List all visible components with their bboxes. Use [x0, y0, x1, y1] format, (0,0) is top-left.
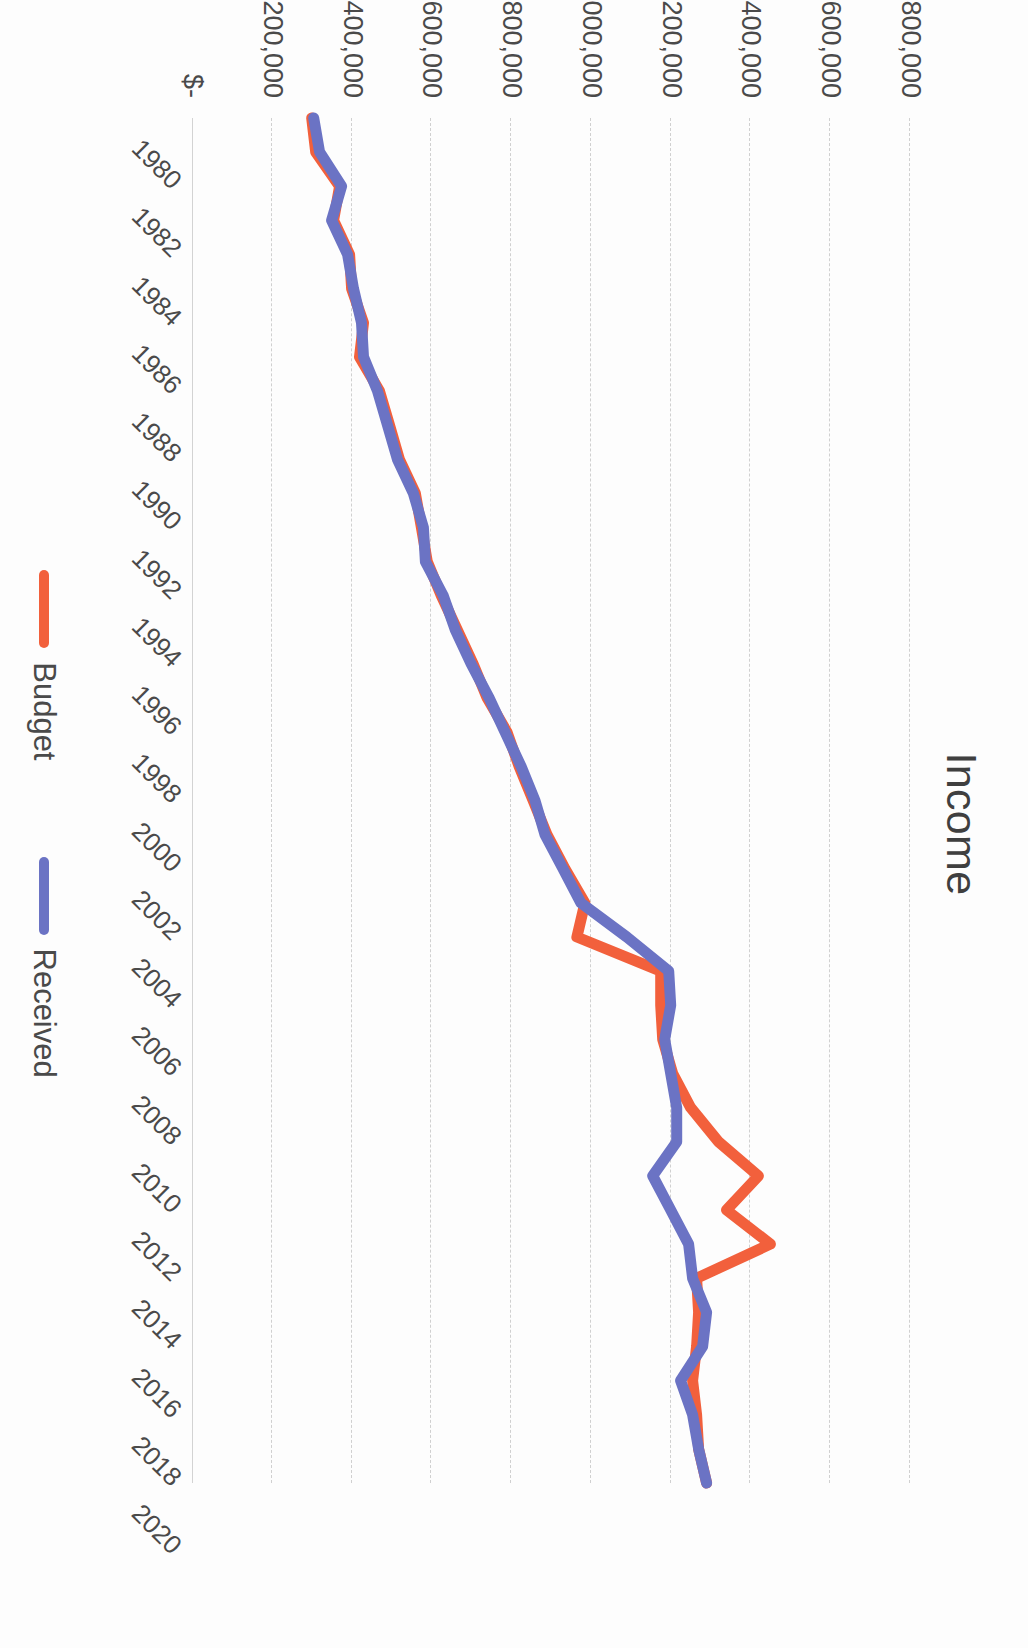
y-axis-tick-label: $200,000 — [256, 0, 287, 98]
line-swatch-icon — [39, 857, 49, 935]
y-axis-tick-label: $1,600,000 — [815, 0, 846, 98]
y-axis-tick-label: $800,000 — [496, 0, 527, 98]
x-axis-tick-label: 2002 — [125, 884, 188, 947]
rotated-page-canvas: Income $1,800,000$1,600,000$1,400,000$1,… — [0, 0, 1028, 1648]
x-axis-tick-label: 1988 — [125, 406, 188, 469]
line-swatch-icon — [39, 570, 49, 648]
y-axis-tick-label: $600,000 — [416, 0, 447, 98]
y-axis-tick-label: $1,000,000 — [575, 0, 606, 98]
series-lines — [192, 118, 910, 1483]
y-axis-labels: $1,800,000$1,600,000$1,400,000$1,200,000… — [192, 0, 910, 112]
x-axis-tick-label: 2006 — [125, 1020, 188, 1083]
x-axis-tick-label: 2014 — [125, 1293, 188, 1356]
series-line-received — [314, 118, 707, 1483]
y-axis-tick-label: $1,800,000 — [895, 0, 926, 98]
y-axis-tick-label: $- — [177, 74, 208, 98]
series-line-budget — [312, 118, 771, 1483]
chart-legend: BudgetReceived — [26, 0, 62, 1648]
legend-label: Received — [26, 949, 62, 1078]
x-axis-tick-label: 2018 — [125, 1430, 188, 1493]
x-axis-tick-label: 2004 — [125, 952, 188, 1015]
x-axis-tick-label: 1982 — [125, 201, 188, 264]
x-axis-tick-label: 1996 — [125, 679, 188, 742]
x-axis-tick-label: 1992 — [125, 542, 188, 605]
x-axis-tick-label: 1998 — [125, 747, 188, 810]
x-axis-tick-label: 2012 — [125, 1225, 188, 1288]
chart-title: Income — [937, 0, 986, 1648]
x-axis-labels: 1980198219841986198819901992199419961998… — [68, 118, 188, 1483]
y-axis-tick-label: $1,400,000 — [735, 0, 766, 98]
x-axis-tick-label: 1990 — [125, 474, 188, 537]
y-axis-tick-label: $400,000 — [336, 0, 367, 98]
x-axis-tick-label: 1994 — [125, 611, 188, 674]
y-axis-tick-label: $1,200,000 — [655, 0, 686, 98]
legend-label: Budget — [26, 662, 62, 760]
plot-area — [192, 118, 910, 1483]
income-line-chart: Income $1,800,000$1,600,000$1,400,000$1,… — [0, 0, 1028, 1648]
legend-item-received[interactable]: Received — [26, 857, 62, 1078]
x-axis-tick-label: 2008 — [125, 1088, 188, 1151]
x-axis-tick-label: 2020 — [125, 1498, 188, 1561]
x-axis-tick-label: 2000 — [125, 815, 188, 878]
x-axis-tick-label: 1980 — [125, 133, 188, 196]
legend-item-budget[interactable]: Budget — [26, 570, 62, 760]
x-axis-tick-label: 1986 — [125, 338, 188, 401]
x-axis-tick-label: 1984 — [125, 269, 188, 332]
x-axis-tick-label: 2010 — [125, 1157, 188, 1220]
x-axis-tick-label: 2016 — [125, 1361, 188, 1424]
